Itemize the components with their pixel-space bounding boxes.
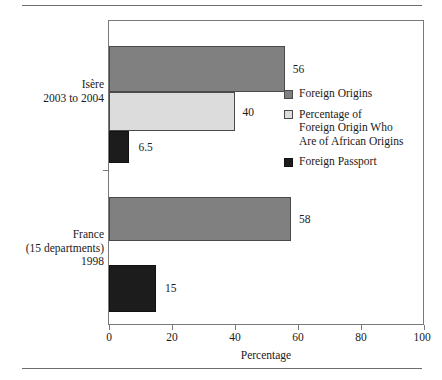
x-axis-tick-60 [298,325,299,330]
chart-plot-area: 56 40 6.5 58 15 Foreign Origins Percenta… [108,20,424,325]
legend-label-foreign-passport: Foreign Passport [299,155,422,169]
bar-france-foreign-origins [109,197,291,241]
x-axis-tick-label-40: 40 [229,332,241,344]
category-label-france-line-1: France [26,228,104,242]
x-axis-tick-label-0: 0 [106,332,112,344]
bar-value-isere-foreign-origins: 56 [293,64,305,76]
legend-label-african-origins-line-1: Percentage of [299,108,422,122]
bar-value-france-foreign-origins: 58 [299,214,311,226]
legend-label-foreign-origins: Foreign Origins [299,87,422,101]
legend-item-foreign-origins: Foreign Origins [284,87,422,101]
legend-swatch-foreign-passport-icon [284,158,293,167]
bar-isere-foreign-origins [109,46,285,92]
category-label-isere-line-2: 2003 to 2004 [43,92,104,106]
bar-isere-foreign-passport [109,131,129,163]
bar-value-isere-african-origins: 40 [243,107,255,119]
category-label-isere-line-1: Isère [43,78,104,92]
x-axis-tick-40 [235,325,236,330]
x-axis-tick-label-20: 20 [166,332,178,344]
x-axis-tick-label-80: 80 [355,332,367,344]
category-label-isere: Isère 2003 to 2004 [43,78,104,105]
legend-label-african-origins-line-3: Are of African Origins [299,135,422,149]
bar-france-foreign-passport [109,265,156,312]
category-label-france-line-3: 1998 [26,255,104,269]
top-divider-rule [22,5,422,6]
x-axis-tick-20 [172,325,173,330]
legend-item-foreign-passport: Foreign Passport [284,155,422,169]
x-axis-tick-100 [424,325,425,330]
x-axis-tick-80 [361,325,362,330]
chart-legend: Foreign Origins Percentage of Foreign Or… [284,87,422,176]
x-axis-tick-label-100: 100 [413,332,430,344]
x-axis-tick-0 [109,325,110,330]
category-label-france: France (15 departments) 1998 [26,228,104,269]
bar-isere-african-origins [109,92,235,131]
bar-value-france-foreign-passport: 15 [165,283,177,295]
bottom-divider-rule [22,368,422,369]
x-axis-title: Percentage [108,350,424,362]
legend-swatch-foreign-origins-icon [284,90,293,99]
x-axis-tick-label-60: 60 [292,332,304,344]
bar-value-isere-foreign-passport: 6.5 [138,142,152,154]
legend-label-african-origins-line-2: Foreign Origin Who [299,121,422,135]
category-label-france-line-2: (15 departments) [26,242,104,256]
legend-swatch-african-origins-icon [284,110,293,119]
legend-item-african-origins: Percentage of Foreign Origin Who Are of … [284,108,422,149]
